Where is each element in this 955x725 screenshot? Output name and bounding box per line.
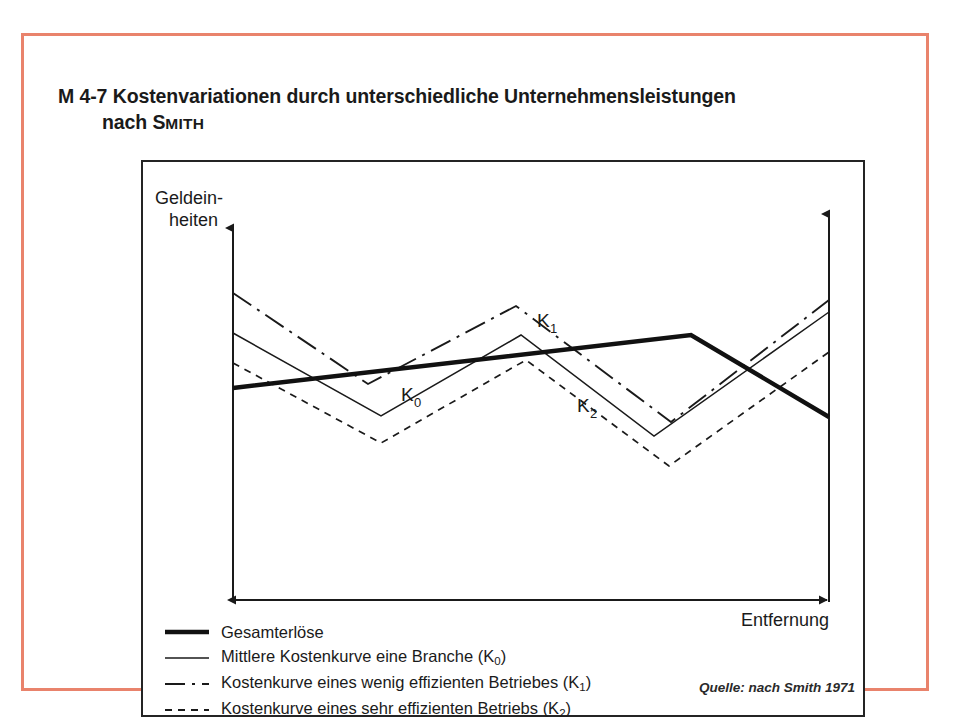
legend-label-k1-text: Kostenkurve eines wenig effizienten Betr… <box>221 673 579 691</box>
legend-swatch-solid-bold <box>163 623 211 641</box>
smith-smallcaps: MITH <box>165 115 204 132</box>
curve-label-k0-base: K <box>401 384 414 405</box>
legend-label-k1: Kostenkurve eines wenig effizienten Betr… <box>221 673 591 696</box>
legend-label-k0-suffix: ) <box>501 647 507 665</box>
y-axis-label-line1: Geldein- <box>155 188 223 208</box>
legend-label-gesamterloese-text: Gesamterlöse <box>221 623 324 641</box>
title-nach-word: nach <box>102 111 152 133</box>
legend-label-gesamterloese: Gesamterlöse <box>221 623 324 641</box>
legend-label-k0-text: Mittlere Kostenkurve eine Branche (K <box>221 647 494 665</box>
legend-item-gesamterloese: Gesamterlöse <box>163 619 803 645</box>
curve-label-k1-sub: 1 <box>550 321 557 336</box>
chart-legend: Gesamterlöse Mittlere Kostenkurve eine B… <box>163 619 803 723</box>
title-line-1: M 4-7 Kostenvariationen durch unterschie… <box>58 83 938 109</box>
curve-label-k2-base: K <box>577 395 590 416</box>
legend-item-k0: Mittlere Kostenkurve eine Branche (K0) <box>163 645 803 671</box>
figure-page: M 4-7 Kostenvariationen durch unterschie… <box>0 0 955 725</box>
curve-k2 <box>233 352 829 466</box>
curve-label-k2: K 2 <box>577 395 597 421</box>
figure-plot-box: Geldein- heiten Entfernung <box>141 160 865 717</box>
curve-label-k0: K 0 <box>401 384 421 410</box>
outer-frame: M 4-7 Kostenvariationen durch unterschie… <box>21 33 929 691</box>
curve-label-k1-base: K <box>537 310 550 331</box>
legend-swatch-dash-dot <box>163 675 211 693</box>
curve-k0 <box>233 312 829 436</box>
curve-label-k1: K 1 <box>537 310 557 336</box>
legend-label-k2: Kostenkurve eines sehr effizienten Betri… <box>221 699 571 722</box>
smith-initial: S <box>152 111 165 133</box>
legend-label-k2-suffix: ) <box>566 699 572 717</box>
curve-label-k0-sub: 0 <box>414 395 421 410</box>
legend-item-k2: Kostenkurve eines sehr effizienten Betri… <box>163 697 803 723</box>
legend-label-k1-suffix: ) <box>586 673 592 691</box>
legend-swatch-dotted <box>163 701 211 719</box>
legend-swatch-solid-thin <box>163 649 211 667</box>
figure-title: M 4-7 Kostenvariationen durch unterschie… <box>58 83 938 137</box>
source-note: Quelle: nach Smith 1971 <box>699 680 855 695</box>
legend-label-k2-text: Kostenkurve eines sehr effizienten Betri… <box>221 699 559 717</box>
title-line-2: nach SMITH <box>58 109 938 137</box>
curve-label-k2-sub: 2 <box>590 406 597 421</box>
legend-label-k0: Mittlere Kostenkurve eine Branche (K0) <box>221 647 506 670</box>
y-axis-label-line2: heiten <box>169 210 218 230</box>
curve-k1 <box>233 293 829 422</box>
